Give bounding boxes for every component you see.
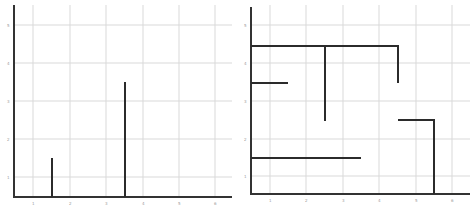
svg-text:4: 4 <box>7 61 10 66</box>
svg-text:5: 5 <box>244 23 247 28</box>
svg-text:1: 1 <box>269 198 272 203</box>
svg-text:2: 2 <box>69 201 72 206</box>
svg-text:3: 3 <box>244 99 247 104</box>
svg-text:6: 6 <box>451 198 454 203</box>
left-chart: 5 4 3 2 1 1 2 3 4 5 6 <box>7 5 232 206</box>
svg-text:4: 4 <box>378 198 381 203</box>
svg-text:1: 1 <box>244 174 247 179</box>
svg-text:5: 5 <box>415 198 418 203</box>
svg-text:2: 2 <box>244 137 247 142</box>
svg-text:3: 3 <box>342 198 345 203</box>
svg-text:4: 4 <box>142 201 145 206</box>
svg-text:1: 1 <box>7 175 10 180</box>
right-chart: 5 4 3 2 1 1 2 3 4 5 6 <box>244 5 470 203</box>
svg-text:3: 3 <box>7 99 10 104</box>
right-x-tick-labels: 1 2 3 4 5 6 <box>269 198 454 203</box>
left-grid <box>14 5 232 197</box>
svg-text:3: 3 <box>105 201 108 206</box>
right-y-tick-labels: 5 4 3 2 1 <box>244 23 247 179</box>
left-y-tick-labels: 5 4 3 2 1 <box>7 23 10 180</box>
right-grid <box>251 5 470 194</box>
svg-text:4: 4 <box>244 61 247 66</box>
svg-text:2: 2 <box>7 137 10 142</box>
svg-text:5: 5 <box>7 23 10 28</box>
left-x-tick-labels: 1 2 3 4 5 6 <box>32 201 217 206</box>
svg-text:1: 1 <box>32 201 35 206</box>
svg-text:5: 5 <box>178 201 181 206</box>
charts-canvas: 5 4 3 2 1 1 2 3 4 5 6 <box>0 0 476 213</box>
svg-text:2: 2 <box>305 198 308 203</box>
svg-text:6: 6 <box>214 201 217 206</box>
